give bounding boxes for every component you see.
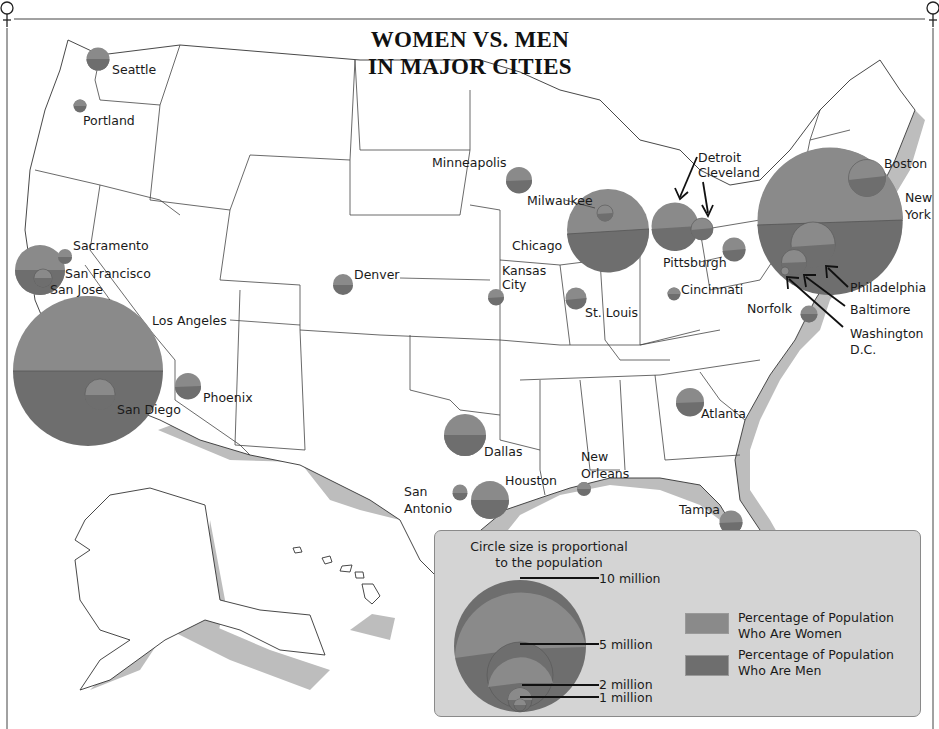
label-new-orleans-line1: New [581, 449, 608, 464]
title-line-2: IN MAJOR CITIES [330, 53, 610, 80]
city-circle-portland[interactable] [74, 100, 87, 113]
label-san-diego: San Diego [117, 402, 181, 417]
label-baltimore: Baltimore [850, 302, 910, 317]
label-st-louis: St. Louis [585, 305, 638, 320]
city-circle-minneapolis[interactable] [506, 167, 532, 194]
label-norfolk: Norfolk [747, 301, 792, 316]
label-new-york: NewYork [905, 189, 932, 223]
scale-label-1m: 1 million [599, 690, 653, 706]
city-circle-denver[interactable] [333, 274, 353, 295]
legend-women-line2: Who Are Women [738, 626, 894, 642]
label-kansas-city-line1: Kansas [502, 263, 546, 278]
label-san-antonio: SanAntonio [404, 483, 452, 517]
hawaii [293, 547, 380, 604]
city-circle-houston[interactable] [471, 481, 509, 519]
female-symbol-right-icon [927, 2, 939, 27]
label-detroit: Detroit [698, 150, 741, 165]
legend-size-note-line1: Circle size is proportional [469, 539, 629, 555]
city-circle-cincinnati[interactable] [668, 288, 681, 301]
legend-swatch-men [685, 655, 729, 676]
label-san-antonio-line1: San [404, 484, 428, 499]
label-los-angeles: Los Angeles [152, 313, 227, 328]
label-portland: Portland [83, 113, 135, 128]
label-cleveland: Cleveland [698, 165, 760, 180]
label-phoenix: Phoenix [203, 390, 253, 405]
label-cincinnati: Cincinnati [681, 282, 743, 297]
label-tampa: Tampa [679, 502, 720, 517]
label-milwaukee: Milwaukee [527, 193, 593, 208]
scale-label-5m: 5 million [599, 637, 653, 653]
city-circle-san-diego[interactable] [85, 379, 115, 410]
city-circle-los-angeles[interactable] [13, 296, 163, 446]
map-title: WOMEN VS. MEN IN MAJOR CITIES [330, 26, 610, 80]
label-new-orleans: NewOrleans [581, 448, 629, 482]
label-houston: Houston [505, 473, 557, 488]
legend-men-line1: Percentage of Population [738, 647, 894, 663]
city-circle-san-antonio[interactable] [453, 485, 468, 501]
legend-label-women: Percentage of Population Who Are Women [738, 610, 894, 642]
legend-women-line1: Percentage of Population [738, 610, 894, 626]
label-new-orleans-line2: Orleans [581, 466, 629, 481]
city-circle-dallas[interactable] [444, 414, 486, 456]
label-dallas: Dallas [484, 444, 522, 459]
label-new-york-line2: York [905, 207, 931, 222]
label-kansas-city-line2: City [502, 277, 527, 292]
city-circle-st-louis[interactable] [566, 288, 587, 310]
legend-men-line2: Who Are Men [738, 663, 894, 679]
label-kansas-city: KansasCity [502, 264, 546, 292]
label-sacramento: Sacramento [73, 238, 149, 253]
city-circle-atlanta[interactable] [676, 388, 704, 417]
label-seattle: Seattle [112, 62, 156, 77]
legend-size-note-line2: to the population [469, 555, 629, 571]
label-new-york-line1: New [905, 190, 932, 205]
female-symbol-left-icon [1, 2, 13, 27]
label-minneapolis: Minneapolis [432, 155, 507, 170]
label-san-francisco: San Francisco [65, 266, 151, 281]
label-pittsburgh: Pittsburgh [663, 255, 727, 270]
label-chicago: Chicago [512, 238, 562, 253]
city-circle-seattle[interactable] [87, 48, 110, 71]
legend-swatch-women [685, 613, 729, 634]
size-scale-circles [454, 580, 586, 712]
label-san-jose: San Jose [50, 282, 103, 297]
label-washington-line1: Washington [850, 326, 923, 341]
label-washington-line2: D.C. [850, 342, 876, 357]
city-circle-norfolk[interactable] [801, 306, 818, 323]
label-boston: Boston [884, 156, 927, 171]
scale-label-10m: 10 million [599, 571, 661, 587]
city-circle-cleveland[interactable] [691, 218, 713, 240]
label-denver: Denver [354, 267, 399, 282]
title-line-1: WOMEN VS. MEN [330, 26, 610, 53]
city-circle-new-orleans[interactable] [577, 482, 591, 496]
city-circle-boston[interactable] [849, 160, 886, 197]
label-philadelphia: Philadelphia [850, 280, 926, 295]
label-san-antonio-line2: Antonio [404, 501, 452, 516]
city-circle-milwaukee[interactable] [597, 205, 613, 221]
city-circle-washington-dc[interactable] [781, 267, 789, 275]
legend-size-note: Circle size is proportional to the popul… [469, 539, 629, 571]
city-circle-sacramento[interactable] [58, 249, 72, 264]
legend-label-men: Percentage of Population Who Are Men [738, 647, 894, 679]
label-atlanta: Atlanta [701, 406, 746, 421]
label-washington-dc: WashingtonD.C. [850, 326, 923, 358]
city-circle-phoenix[interactable] [175, 373, 201, 399]
